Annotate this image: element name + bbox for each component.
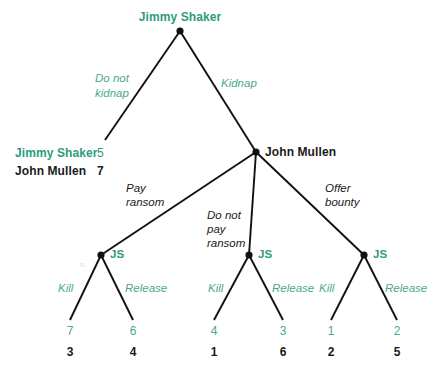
leaf-payoff-5-player1: 1 [328, 324, 335, 338]
scan-artifact: n. [80, 260, 87, 269]
node-js-2[interactable] [245, 251, 252, 258]
edge-do-not-pay-ransom [249, 152, 256, 255]
leaf-payoff-4-player1: 3 [280, 324, 287, 338]
terminal-left-player1-value: 5 [97, 146, 104, 160]
action-label-release-3: Release [385, 282, 427, 296]
leaf-payoff-2-player1: 6 [130, 324, 137, 338]
node-label-john-mullen: John Mullen [265, 145, 336, 159]
terminal-left-player1-name: Jimmy Shaker [15, 146, 98, 160]
node-john-mullen[interactable] [252, 148, 259, 155]
action-label-release-2: Release [272, 282, 314, 296]
tree-edges [0, 0, 438, 369]
leaf-payoff-3-player2: 1 [211, 345, 218, 359]
leaf-payoff-2-player2: 4 [130, 345, 137, 359]
action-label-pay-ransom-line1: Pay [126, 182, 146, 196]
action-label-kill-3: Kill [319, 282, 334, 296]
leaf-payoff-6-player2: 5 [394, 345, 401, 359]
action-label-do-not-pay-ransom-line1: Do not [207, 209, 241, 223]
node-js-1[interactable] [97, 251, 104, 258]
action-label-do-not-kidnap-line1: Do not [95, 72, 129, 86]
leaf-payoff-5-player2: 2 [328, 345, 335, 359]
action-label-offer-bounty-line1: Offer [325, 182, 351, 196]
leaf-payoff-6-player1: 2 [394, 324, 401, 338]
action-label-do-not-kidnap-line2: kidnap [95, 87, 129, 101]
leaf-payoff-3-player1: 4 [211, 324, 218, 338]
action-label-kill-1: Kill [58, 282, 73, 296]
terminal-left-player2-name: John Mullen [15, 164, 86, 178]
node-root[interactable] [176, 27, 183, 34]
leaf-payoff-4-player2: 6 [280, 345, 287, 359]
node-label-js-3: JS [373, 248, 387, 262]
leaf-payoff-1-player2: 3 [67, 345, 74, 359]
game-tree-diagram: Jimmy Shaker Do not kidnap Kidnap Jimmy … [0, 0, 438, 369]
leaf-payoff-1-player1: 7 [67, 324, 74, 338]
action-label-kidnap: Kidnap [221, 77, 257, 91]
root-player-label: Jimmy Shaker [139, 10, 222, 24]
action-label-do-not-pay-ransom-line3: ransom [207, 237, 245, 251]
action-label-do-not-pay-ransom-line2: pay [207, 223, 226, 237]
edge-kill-3 [331, 255, 364, 320]
action-label-kill-2: Kill [208, 282, 223, 296]
action-label-release-1: Release [125, 282, 167, 296]
edge-kidnap [180, 31, 256, 152]
action-label-offer-bounty-line2: bounty [325, 196, 360, 210]
node-label-js-1: JS [110, 248, 124, 262]
action-label-pay-ransom-line2: ransom [126, 196, 164, 210]
node-js-3[interactable] [360, 251, 367, 258]
terminal-left-player2-value: 7 [97, 164, 104, 178]
node-label-js-2: JS [258, 248, 272, 262]
